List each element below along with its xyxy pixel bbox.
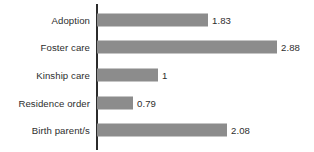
bar-chart: Adoption 1.83 Foster care 2.88 Kinship c… [0, 0, 314, 152]
category-label: Foster care [0, 42, 90, 53]
bar[interactable] [97, 124, 227, 137]
category-label: Residence order [0, 97, 90, 108]
bar[interactable] [97, 13, 208, 26]
bar-value-label: 1 [162, 69, 167, 80]
bar-value-label: 1.83 [212, 14, 231, 25]
bar-group: 2.08 [97, 124, 250, 137]
bar-value-label: 2.88 [281, 42, 300, 53]
bar-group: 1.83 [97, 13, 231, 26]
category-label: Kinship care [0, 69, 90, 80]
chart-row-birth-parents: Birth parent/s 2.08 [0, 116, 314, 144]
chart-row-kinship-care: Kinship care 1 [0, 61, 314, 89]
bar-value-label: 2.08 [231, 125, 250, 136]
chart-row-residence-order: Residence order 0.79 [0, 89, 314, 117]
bar[interactable] [97, 41, 277, 54]
bar-group: 2.88 [97, 41, 300, 54]
category-label: Birth parent/s [0, 125, 90, 136]
chart-row-foster-care: Foster care 2.88 [0, 34, 314, 62]
bar-value-label: 0.79 [137, 97, 156, 108]
bar-group: 1 [97, 68, 167, 81]
chart-rows: Adoption 1.83 Foster care 2.88 Kinship c… [0, 0, 314, 152]
bar[interactable] [97, 68, 158, 81]
bar[interactable] [97, 96, 133, 109]
category-label: Adoption [0, 14, 90, 25]
chart-row-adoption: Adoption 1.83 [0, 6, 314, 34]
bar-group: 0.79 [97, 96, 156, 109]
